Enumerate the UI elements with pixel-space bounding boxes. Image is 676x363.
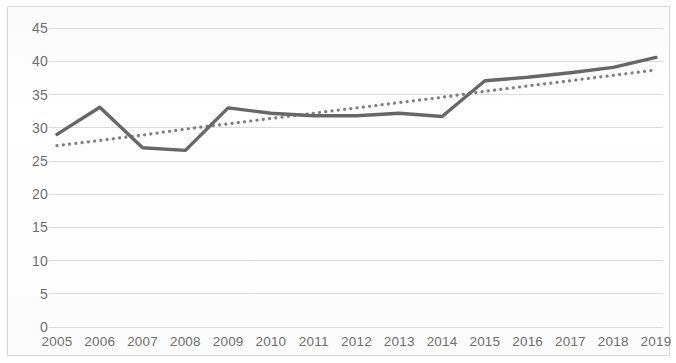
x-axis-tick-label: 2007 bbox=[127, 334, 158, 349]
series-group bbox=[57, 57, 656, 150]
y-axis-tick-label: 10 bbox=[18, 253, 48, 269]
trendline-path bbox=[57, 70, 656, 146]
y-axis-tick-label: 45 bbox=[18, 20, 48, 36]
x-axis-tick-label: 2016 bbox=[512, 334, 543, 349]
y-axis-tick-label: 40 bbox=[18, 53, 48, 69]
y-axis-tick-label: 30 bbox=[18, 120, 48, 136]
y-axis-tick-label: 25 bbox=[18, 153, 48, 169]
x-axis-tick-label: 2013 bbox=[384, 334, 415, 349]
x-axis-labels: 2005200620072008200920102011201220132014… bbox=[0, 334, 676, 358]
x-axis-tick-label: 2018 bbox=[598, 334, 629, 349]
x-axis-tick-label: 2009 bbox=[213, 334, 244, 349]
y-axis-tick-label: 0 bbox=[18, 319, 48, 335]
x-axis-tick-label: 2010 bbox=[256, 334, 287, 349]
x-axis-tick-label: 2005 bbox=[42, 334, 73, 349]
y-axis-tick-label: 35 bbox=[18, 87, 48, 103]
x-axis-tick-label: 2012 bbox=[341, 334, 372, 349]
x-axis-tick-label: 2011 bbox=[299, 334, 329, 349]
y-axis-tick-label: 15 bbox=[18, 219, 48, 235]
y-axis-labels: 051015202530354045 bbox=[14, 0, 48, 363]
x-axis-tick-label: 2019 bbox=[641, 334, 672, 349]
x-axis-tick-label: 2017 bbox=[555, 334, 586, 349]
x-axis-tick-label: 2008 bbox=[170, 334, 201, 349]
x-axis-tick-label: 2006 bbox=[84, 334, 115, 349]
y-axis-tick-label: 20 bbox=[18, 186, 48, 202]
y-axis-tick-label: 5 bbox=[18, 286, 48, 302]
x-axis-tick-label: 2014 bbox=[427, 334, 458, 349]
x-axis-tick-label: 2015 bbox=[469, 334, 500, 349]
line-chart-plot bbox=[0, 0, 676, 363]
data-line-path bbox=[57, 57, 656, 150]
